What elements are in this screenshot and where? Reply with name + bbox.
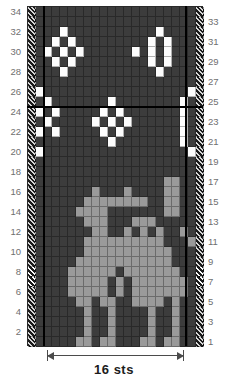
stitch-cell	[84, 267, 92, 277]
stitch-cell	[84, 97, 92, 107]
stitch-cell	[44, 297, 52, 307]
stitch-cell	[196, 317, 204, 327]
stitch-cell	[172, 187, 180, 197]
stitch-cell	[44, 197, 52, 207]
stitch-cell	[196, 277, 204, 287]
stitch-cell	[76, 27, 84, 37]
stitch-cell	[68, 127, 76, 137]
stitch-cell	[28, 237, 36, 247]
stitch-cell	[148, 117, 156, 127]
stitch-cell	[156, 287, 164, 297]
stitch-cell	[68, 207, 76, 217]
stitch-cell	[44, 37, 52, 47]
stitch-cell	[60, 267, 68, 277]
stitch-cell	[108, 337, 116, 347]
stitch-cell	[116, 207, 124, 217]
stitch-cell	[108, 287, 116, 297]
stitch-cell	[68, 97, 76, 107]
stitch-cell	[52, 257, 60, 267]
stitch-cell	[132, 257, 140, 267]
stitch-cell	[124, 157, 132, 167]
stitch-cell	[92, 187, 100, 197]
stitch-cell	[84, 247, 92, 257]
stitch-cell	[124, 207, 132, 217]
row-number-32: 32	[10, 27, 21, 37]
stitch-cell	[60, 287, 68, 297]
stitch-cell	[172, 307, 180, 317]
stitch-cell	[92, 167, 100, 177]
stitch-cell	[68, 187, 76, 197]
stitch-cell	[180, 127, 188, 137]
stitch-cell	[132, 97, 140, 107]
stitch-cell	[188, 107, 196, 117]
stitch-cell	[156, 327, 164, 337]
stitch-cell	[100, 137, 108, 147]
stitch-cell	[116, 317, 124, 327]
stitch-cell	[44, 107, 52, 117]
stitch-cell	[156, 307, 164, 317]
stitch-cell	[52, 267, 60, 277]
stitch-cell	[188, 247, 196, 257]
stitch-cell	[172, 277, 180, 287]
stitch-cell	[44, 257, 52, 267]
stitch-cell	[36, 287, 44, 297]
stitch-cell	[92, 197, 100, 207]
stitch-cell	[68, 7, 76, 17]
stitch-cell	[172, 117, 180, 127]
stitch-cell	[108, 137, 116, 147]
stitch-cell	[28, 127, 36, 137]
stitch-cell	[164, 277, 172, 287]
stitch-cell	[60, 47, 68, 57]
stitch-cell	[172, 37, 180, 47]
stitch-cell	[132, 287, 140, 297]
stitch-cell	[124, 117, 132, 127]
stitch-cell	[28, 57, 36, 67]
stitch-cell	[164, 177, 172, 187]
stitch-cell	[92, 307, 100, 317]
arrow-head-left-icon	[47, 352, 54, 360]
stitch-cell	[148, 277, 156, 287]
stitch-cell	[60, 147, 68, 157]
stitch-cell	[164, 187, 172, 197]
stitch-cell	[52, 157, 60, 167]
stitch-cell	[196, 157, 204, 167]
stitch-cell	[60, 327, 68, 337]
stitch-cell	[76, 67, 84, 77]
stitch-cell	[92, 327, 100, 337]
stitch-cell	[68, 47, 76, 57]
stitch-cell	[52, 47, 60, 57]
stitch-cell	[196, 237, 204, 247]
stitch-cell	[60, 27, 68, 37]
stitch-cell	[196, 7, 204, 17]
stitch-cell	[164, 307, 172, 317]
stitch-cell	[156, 77, 164, 87]
stitch-cell	[180, 147, 188, 157]
stitch-cell	[164, 157, 172, 167]
stitch-cell	[180, 317, 188, 327]
stitch-cell	[52, 307, 60, 317]
stitch-cell	[76, 127, 84, 137]
stitch-cell	[116, 247, 124, 257]
stitch-cell	[108, 267, 116, 277]
stitch-cell	[100, 207, 108, 217]
stitch-cell	[60, 227, 68, 237]
stitch-cell	[44, 117, 52, 127]
row-number-12: 12	[10, 227, 21, 237]
row-number-20: 20	[10, 147, 21, 157]
row-number-28: 28	[10, 67, 21, 77]
stitch-cell	[124, 217, 132, 227]
stitch-cell	[116, 77, 124, 87]
stitch-cell	[76, 337, 84, 347]
stitch-cell	[124, 187, 132, 197]
stitch-cell	[140, 87, 148, 97]
stitch-cell	[84, 137, 92, 147]
stitch-cell	[60, 197, 68, 207]
stitch-cell	[164, 267, 172, 277]
stitch-cell	[188, 307, 196, 317]
stitch-cell	[28, 277, 36, 287]
row-number-9: 9	[208, 257, 213, 267]
stitch-cell	[60, 177, 68, 187]
stitch-cell	[188, 117, 196, 127]
stitch-cell	[180, 197, 188, 207]
stitch-cell	[68, 297, 76, 307]
